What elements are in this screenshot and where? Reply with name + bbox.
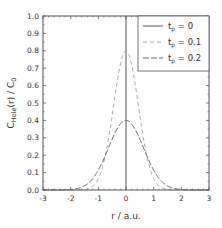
y-tick-label: 0.9 bbox=[27, 29, 39, 38]
chart: -3-2-10123 0.00.10.20.30.40.50.60.70.80.… bbox=[0, 0, 222, 228]
x-tick-label: 1 bbox=[151, 194, 156, 203]
x-tick-label: 2 bbox=[179, 194, 184, 203]
x-tick-label: 3 bbox=[207, 194, 212, 203]
y-tick-label: 0.8 bbox=[27, 46, 39, 55]
y-tick-label: 0.2 bbox=[27, 151, 39, 160]
y-tick-label: 0.5 bbox=[27, 99, 39, 108]
y-label-sub2: 0 bbox=[10, 78, 18, 82]
y-tick-label: 0.3 bbox=[27, 133, 39, 142]
y-axis-label: CHole(r) / C0 bbox=[6, 78, 18, 129]
x-tick-label: -1 bbox=[95, 194, 103, 203]
y-tick-label: 1.0 bbox=[27, 12, 39, 21]
x-axis-label: r / a.u. bbox=[111, 211, 140, 221]
y-label-sub: Hole bbox=[10, 107, 18, 122]
legend: tp = 0tp = 0.1tp = 0.2 bbox=[138, 16, 209, 71]
y-tick-label: 0.4 bbox=[27, 116, 39, 125]
x-tick-label: -2 bbox=[67, 194, 75, 203]
x-tick-label: -3 bbox=[39, 194, 47, 203]
y-label-rest: (r) / C bbox=[6, 82, 16, 108]
y-tick-label: 0.7 bbox=[27, 64, 39, 73]
x-tick-label: 0 bbox=[124, 194, 129, 203]
y-tick-label: 0.6 bbox=[27, 81, 39, 90]
y-tick-label: 0.0 bbox=[27, 186, 39, 195]
y-tick-label: 0.1 bbox=[27, 168, 39, 177]
